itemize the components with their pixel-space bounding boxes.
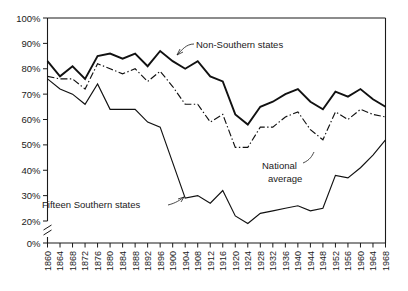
x-tick-label: 1880 — [105, 251, 115, 271]
x-tick-label: 1908 — [193, 251, 203, 271]
x-tick-label: 1952 — [331, 251, 341, 271]
y-axis-break-mark-2 — [44, 230, 52, 235]
turnout-line-chart: 100%90%80%70%60%50%40%30%20%0%1860186418… — [0, 0, 408, 291]
series-line-national-average — [48, 64, 386, 148]
y-tick-label: 20% — [21, 216, 41, 227]
x-tick-label: 1872 — [80, 251, 90, 271]
x-tick-label: 1916 — [218, 251, 228, 271]
x-tick-label: 1948 — [318, 251, 328, 271]
x-tick-label: 1864 — [55, 251, 65, 271]
annotation-non-southern-states: Non-Southern states — [196, 39, 283, 50]
y-tick-label: 90% — [21, 38, 41, 49]
x-tick-label: 1928 — [256, 251, 266, 271]
y-axis-break-mark — [44, 225, 52, 230]
annotation-national-average-line1: National — [262, 160, 297, 171]
x-tick-label: 1868 — [68, 251, 78, 271]
x-tick-label: 1936 — [281, 251, 291, 271]
x-tick-label: 1968 — [381, 251, 391, 271]
x-axis — [48, 237, 386, 243]
y-tick-label: 30% — [21, 190, 41, 201]
x-tick-label: 1944 — [306, 251, 316, 271]
x-tick-label: 1960 — [356, 251, 366, 271]
x-tick-label: 1940 — [293, 251, 303, 271]
y-tick-label: 50% — [21, 139, 41, 150]
chart-canvas: 100%90%80%70%60%50%40%30%20%0%1860186418… — [0, 0, 408, 291]
x-tick-label: 1860 — [43, 251, 53, 271]
x-tick-label: 1888 — [131, 251, 141, 271]
annotation-fifteen-southern-states: Fifteen Southern states — [42, 199, 140, 210]
x-tick-label: 1964 — [368, 251, 378, 271]
x-tick-label: 1904 — [181, 251, 191, 271]
y-tick-label: 100% — [16, 13, 41, 24]
y-tick-label: 60% — [21, 114, 41, 125]
x-tick-label: 1876 — [93, 251, 103, 271]
x-tick-label: 1892 — [143, 251, 153, 271]
annotation-leader-national — [303, 152, 314, 163]
x-tick-label: 1884 — [118, 251, 128, 271]
x-tick-label: 1912 — [206, 251, 216, 271]
x-tick-label: 1920 — [231, 251, 241, 271]
x-tick-label: 1896 — [156, 251, 166, 271]
x-tick-label: 1924 — [243, 251, 253, 271]
y-tick-label: 0% — [27, 238, 41, 249]
y-tick-label: 70% — [21, 89, 41, 100]
y-tick-label: 80% — [21, 63, 41, 74]
x-tick-label: 1932 — [268, 251, 278, 271]
x-tick-label: 1900 — [168, 251, 178, 271]
y-tick-label: 40% — [21, 165, 41, 176]
annotation-national-average-line2: average — [268, 173, 302, 184]
x-tick-label: 1956 — [343, 251, 353, 271]
